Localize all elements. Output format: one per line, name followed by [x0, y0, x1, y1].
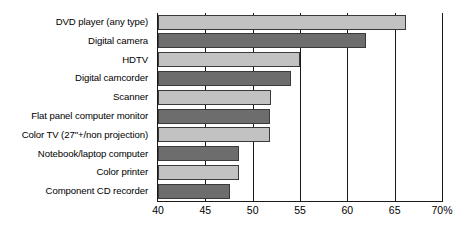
- gridline: [442, 13, 443, 201]
- bar: [158, 33, 366, 48]
- bar-chart: DVD player (any type)Digital cameraHDTVD…: [0, 0, 467, 243]
- bar-row: [158, 32, 442, 51]
- x-tick-label: 45: [199, 204, 211, 216]
- category-label: HDTV: [0, 51, 153, 70]
- bar: [158, 71, 291, 86]
- category-label: Color printer: [0, 163, 153, 182]
- bar-row: [158, 107, 442, 126]
- x-axis-line: [157, 201, 443, 202]
- bar: [158, 15, 406, 30]
- plot-area: [158, 13, 442, 201]
- category-label: Scanner: [0, 88, 153, 107]
- x-axis-tick-labels: 40455055606570%: [158, 204, 458, 220]
- bar-row: [158, 163, 442, 182]
- category-label: Digital camera: [0, 32, 153, 51]
- x-tick-label: 65: [389, 204, 401, 216]
- category-label: Component CD recorder: [0, 182, 153, 201]
- category-label: Digital camcorder: [0, 69, 153, 88]
- x-tick-label: 60: [341, 204, 353, 216]
- bar: [158, 127, 270, 142]
- x-tick-label: 55: [294, 204, 306, 216]
- bar: [158, 52, 300, 67]
- category-label: Flat panel computer monitor: [0, 107, 153, 126]
- bar: [158, 146, 239, 161]
- bar: [158, 90, 271, 105]
- bar-row: [158, 51, 442, 70]
- category-axis-labels: DVD player (any type)Digital cameraHDTVD…: [0, 13, 153, 201]
- bar-row: [158, 145, 442, 164]
- bar: [158, 184, 230, 199]
- category-label: DVD player (any type): [0, 13, 153, 32]
- x-tick-label: 50: [247, 204, 259, 216]
- bar-row: [158, 88, 442, 107]
- category-label: Color TV (27"+/non projection): [0, 126, 153, 145]
- bar-row: [158, 126, 442, 145]
- bar: [158, 109, 270, 124]
- bar-row: [158, 13, 442, 32]
- bar-row: [158, 69, 442, 88]
- category-label: Notebook/laptop computer: [0, 145, 153, 164]
- bar: [158, 165, 239, 180]
- x-tick-label: 70%: [431, 204, 452, 216]
- bar-row: [158, 182, 442, 201]
- x-tick-label: 40: [152, 204, 164, 216]
